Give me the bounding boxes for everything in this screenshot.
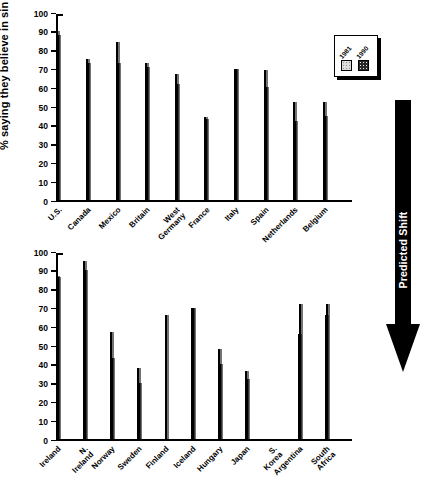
y-tick-label: 50 (39, 343, 48, 352)
arrow-down-icon (386, 324, 420, 372)
bar-group: N. Ireland (83, 253, 110, 441)
bar-group: Sweden (137, 253, 164, 441)
x-axis-category-label: France (187, 206, 211, 230)
x-axis-category-label: Iceland (172, 445, 197, 470)
bar-group: Canada (86, 14, 116, 202)
y-tick-label: 30 (39, 141, 48, 150)
y-tick-label: 30 (39, 380, 48, 389)
y-tick-label: 100 (34, 249, 48, 258)
x-axis-category-label: Italy (224, 206, 241, 223)
bar-1990 (111, 358, 113, 441)
y-tick-label: 80 (39, 286, 48, 295)
bar-1990 (117, 63, 119, 202)
chart-panel-bottom: 0102030405060708090100 IrelandN. Ireland… (56, 253, 352, 441)
x-axis-category-label: Hungary (196, 445, 225, 474)
bar-1990 (176, 84, 178, 202)
bar-1990 (265, 87, 267, 202)
bar-1990 (57, 277, 59, 441)
y-tick-label: 80 (39, 47, 48, 56)
bar-1990 (294, 121, 296, 202)
y-tick-label: 40 (39, 123, 48, 132)
x-axis-category-label: Ireland (39, 445, 63, 469)
x-axis-category-label: Canada (67, 206, 93, 232)
legend-label-1981: 1981 (338, 45, 353, 60)
legend-swatch-1981 (341, 60, 352, 71)
y-tick-label: 20 (39, 160, 48, 169)
legend-swatch-1990 (358, 60, 369, 71)
bar-group: West Germany (174, 14, 204, 202)
bar-group: Mexico (115, 14, 145, 202)
bar-1990 (246, 379, 248, 441)
predicted-shift-label: Predicted Shift (397, 211, 409, 288)
x-axis-category-label: Sweden (117, 445, 144, 472)
bar-1990 (326, 304, 328, 441)
bar-1990 (138, 383, 140, 441)
x-axis-category-label: West Germany (151, 206, 187, 242)
plot-area-bottom: 0102030405060708090100 IrelandN. Ireland… (56, 253, 352, 441)
plot-area-top: 0102030405060708090100 U.S.CanadaMexicoB… (56, 14, 352, 202)
bar-1990 (299, 304, 301, 441)
y-tick-label: 10 (39, 418, 48, 427)
bar-1990 (235, 69, 237, 202)
y-axis-title: % saying they believe in sin (0, 2, 10, 150)
bar-1990 (146, 67, 148, 202)
bar-1990 (205, 119, 207, 202)
x-axis-category-label: Mexico (98, 206, 123, 231)
y-tick-label: 0 (43, 437, 48, 446)
bar-group: U.S. (56, 14, 86, 202)
y-tick-label: 40 (39, 362, 48, 371)
x-axis-category-label: N. Ireland (66, 445, 96, 475)
bar-group: Japan (244, 253, 271, 441)
bar-1990 (57, 35, 59, 202)
bar-group: Argentina (298, 253, 325, 441)
y-tick-label: 0 (43, 198, 48, 207)
bar-group: Hungary (217, 253, 244, 441)
bar-group: Iceland (191, 253, 218, 441)
y-tick-label: 60 (39, 324, 48, 333)
y-tick-label: 70 (39, 66, 48, 75)
bar-group: Italy (234, 14, 264, 202)
bar-group: South Africa (325, 253, 352, 441)
bar-1990 (84, 270, 86, 441)
bar-1990 (87, 63, 89, 202)
bar-1990 (165, 315, 167, 441)
x-axis-category-label: Norway (91, 445, 117, 471)
bar-1990 (192, 308, 194, 441)
bar-group: Netherlands (293, 14, 323, 202)
bar-group: Norway (110, 253, 137, 441)
chart-legend: 1981 1990 (334, 35, 378, 77)
y-tick-label: 100 (34, 10, 48, 19)
bar-groups-top: U.S.CanadaMexicoBritainWest GermanyFranc… (56, 14, 352, 202)
y-tick-label: 70 (39, 305, 48, 314)
y-tick-label: 90 (39, 29, 48, 38)
predicted-shift-annotation: Predicted Shift (386, 100, 420, 372)
bar-1990 (219, 364, 221, 441)
bar-group: Spain (263, 14, 293, 202)
bar-group: Britain (145, 14, 175, 202)
x-axis-category-label: Spain (249, 206, 270, 227)
x-axis-category-label: Belgium (302, 206, 330, 234)
bar-group: S. Korea (271, 253, 298, 441)
x-axis-category-label: Japan (229, 445, 251, 467)
x-axis-category-label: South Africa (308, 445, 338, 475)
bar-1990 (324, 116, 326, 202)
legend-label-1990: 1990 (355, 45, 370, 60)
bar-groups-bottom: IrelandN. IrelandNorwaySwedenFinlandIcel… (56, 253, 352, 441)
bar-group: France (204, 14, 234, 202)
x-axis-category-label: Britain (128, 206, 152, 230)
y-tick-label: 20 (39, 399, 48, 408)
x-axis-category-label: U.S. (47, 206, 64, 223)
y-tick-label: 50 (39, 104, 48, 113)
y-tick-label: 90 (39, 268, 48, 277)
x-axis-category-label: Finland (145, 445, 171, 471)
chart-panel-top: 0102030405060708090100 U.S.CanadaMexicoB… (56, 14, 352, 202)
bar-group: Ireland (56, 253, 83, 441)
chart-figure: % saying they believe in sin 01020304050… (0, 0, 427, 491)
y-tick-label: 60 (39, 85, 48, 94)
y-tick-label: 10 (39, 179, 48, 188)
legend-entries: 1981 1990 (335, 36, 377, 76)
bar-group: Finland (164, 253, 191, 441)
